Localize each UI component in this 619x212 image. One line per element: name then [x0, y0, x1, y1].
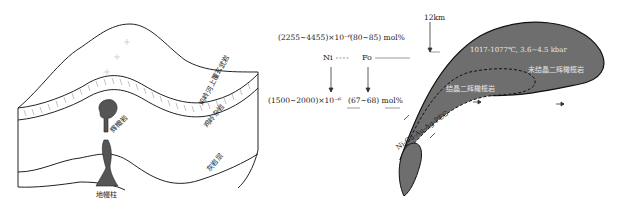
top-fo-value: (80~85) mol%	[350, 33, 405, 42]
intrusions	[96, 100, 118, 186]
fo-label: Fo	[362, 53, 372, 62]
depth-arrow	[428, 22, 440, 52]
depth-label: 12km	[424, 13, 445, 22]
geology-diagram: 鸡岭河上覆玄武岩 鸡岭杂岩 灰岩层 辉橄岩 地幔柱	[0, 0, 619, 212]
basalt-top-edge	[18, 74, 258, 108]
right-edge	[238, 72, 258, 188]
label-intrusion-lower: 地幔柱	[96, 190, 117, 199]
label-lower-layer: 灰岩层	[205, 151, 225, 173]
lower-blob	[399, 143, 421, 196]
label-top-basalt: 鸡岭河上覆玄武岩	[197, 53, 231, 107]
label-middle-basalt: 鸡岭杂岩	[202, 102, 227, 129]
left-labels: 鸡岭河上覆玄武岩 鸡岭杂岩 灰岩层 辉橄岩 地幔柱	[96, 53, 231, 199]
bottom-ni-value: (1500~2000)×10⁻⁶	[268, 96, 341, 105]
conditions-label: 1017-1077℃, 3.6~4.5 kbar	[470, 46, 568, 54]
intrusion-lower	[96, 140, 118, 186]
ni-label: Ni	[323, 53, 333, 62]
outer-chamber-label: 未结晶二辉橄榄岩	[528, 65, 584, 74]
volcanic-vent-markers	[104, 39, 130, 75]
inner-chamber-label: 结晶二辉橄榄岩	[446, 84, 495, 93]
bottom-fo-value: (67~68) mol%	[348, 96, 403, 105]
basalt-bottom-edge	[18, 88, 258, 120]
top-ni-value: (2255~4455)×10⁻⁶	[278, 33, 351, 42]
